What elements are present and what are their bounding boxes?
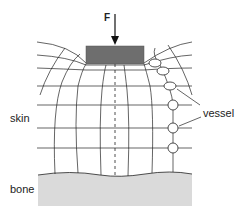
force-arrow-icon bbox=[111, 36, 119, 45]
vessel-4 bbox=[168, 100, 178, 110]
indenter-block bbox=[86, 46, 144, 64]
vessel-label: vessel bbox=[203, 108, 234, 119]
vessel-leader-lines bbox=[177, 89, 201, 126]
vessel-3 bbox=[164, 82, 176, 90]
vessel-2 bbox=[157, 67, 169, 75]
bone-region bbox=[38, 172, 192, 206]
skin-label: skin bbox=[10, 113, 30, 124]
vessels bbox=[149, 59, 178, 153]
force-label: F bbox=[104, 13, 110, 23]
vessel-1 bbox=[149, 59, 161, 67]
vessel-6 bbox=[168, 143, 178, 153]
bone-label: bone bbox=[10, 184, 34, 195]
vessel-5 bbox=[168, 123, 178, 133]
